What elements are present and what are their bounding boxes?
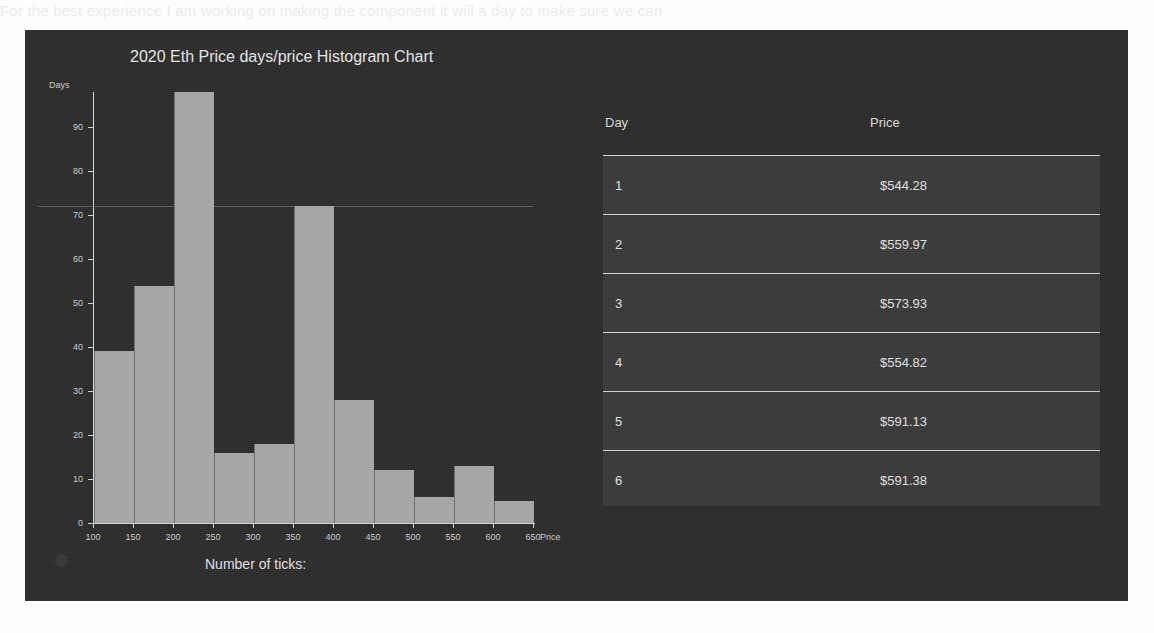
plot-area: 0102030405060708090 10015020025030035040… — [93, 92, 533, 524]
table-row[interactable]: 5$591.13 — [603, 392, 1100, 451]
y-tick-label: 80 — [61, 166, 83, 176]
x-tick — [173, 523, 174, 528]
price-table: Day Price 1$544.282$559.973$573.934$554.… — [585, 30, 1128, 601]
x-tick-label: 400 — [325, 532, 340, 542]
x-tick-label: 550 — [445, 532, 460, 542]
histogram-bar — [334, 400, 374, 523]
cell-price: $573.93 — [880, 296, 927, 311]
x-tick — [93, 523, 94, 528]
y-tick — [88, 391, 93, 392]
x-tick — [253, 523, 254, 528]
status-dot-icon — [55, 554, 68, 567]
x-axis-label: Price — [540, 532, 561, 542]
background-ghost-text-top: For the best experience I am working on … — [0, 2, 1154, 28]
y-tick — [88, 171, 93, 172]
x-tick — [413, 523, 414, 528]
x-tick-label: 350 — [285, 532, 300, 542]
cell-price: $591.13 — [880, 414, 927, 429]
y-tick — [88, 127, 93, 128]
y-tick — [88, 347, 93, 348]
y-tick — [88, 303, 93, 304]
histogram-bar — [134, 286, 174, 523]
histogram-bar — [214, 453, 254, 523]
x-tick-label: 650 — [525, 532, 540, 542]
histogram-chart: 2020 Eth Price days/price Histogram Char… — [25, 30, 585, 601]
histogram-bar — [374, 470, 414, 523]
x-tick — [453, 523, 454, 528]
x-tick-label: 300 — [245, 532, 260, 542]
x-tick — [333, 523, 334, 528]
chart-title: 2020 Eth Price days/price Histogram Char… — [130, 48, 433, 66]
y-axis-label: Days — [49, 80, 70, 90]
cell-day: 5 — [615, 414, 622, 429]
table-row[interactable]: 4$554.82 — [603, 333, 1100, 392]
x-tick — [493, 523, 494, 528]
histogram-bar — [94, 351, 134, 523]
y-tick-label: 30 — [61, 386, 83, 396]
histogram-bar — [494, 501, 534, 523]
y-tick-label: 20 — [61, 430, 83, 440]
cell-price: $591.38 — [880, 473, 927, 488]
y-tick-label: 10 — [61, 474, 83, 484]
table-header-row: Day Price — [585, 115, 1100, 155]
cell-day: 4 — [615, 355, 622, 370]
y-tick — [88, 479, 93, 480]
x-axis-line — [93, 523, 535, 524]
table-row[interactable]: 3$573.93 — [603, 274, 1100, 333]
x-tick-label: 100 — [85, 532, 100, 542]
y-tick-label: 50 — [61, 298, 83, 308]
x-tick — [133, 523, 134, 528]
y-tick-label: 40 — [61, 342, 83, 352]
table-row[interactable]: 1$544.28 — [603, 156, 1100, 215]
cell-price: $544.28 — [880, 178, 927, 193]
y-tick — [88, 435, 93, 436]
table-body[interactable]: 1$544.282$559.973$573.934$554.825$591.13… — [603, 155, 1100, 506]
x-tick-label: 150 — [125, 532, 140, 542]
app-panel: 2020 Eth Price days/price Histogram Char… — [25, 30, 1128, 601]
background-ghost-text-bottom — [0, 606, 1154, 632]
cell-price: $554.82 — [880, 355, 927, 370]
cell-day: 6 — [615, 473, 622, 488]
y-tick — [88, 259, 93, 260]
column-header-price: Price — [870, 115, 900, 130]
histogram-bar — [414, 497, 454, 523]
x-tick — [293, 523, 294, 528]
histogram-bar — [294, 206, 334, 523]
column-header-day: Day — [605, 115, 628, 130]
number-of-ticks-label: Number of ticks: — [205, 556, 306, 572]
cell-day: 3 — [615, 296, 622, 311]
histogram-bar — [174, 92, 214, 523]
y-tick-label: 70 — [61, 210, 83, 220]
x-tick — [373, 523, 374, 528]
x-tick-label: 250 — [205, 532, 220, 542]
x-tick-label: 600 — [485, 532, 500, 542]
table-row[interactable]: 2$559.97 — [603, 215, 1100, 274]
cell-day: 1 — [615, 178, 622, 193]
x-tick-label: 450 — [365, 532, 380, 542]
y-tick-label: 60 — [61, 254, 83, 264]
histogram-bar — [254, 444, 294, 523]
x-tick-label: 200 — [165, 532, 180, 542]
cell-day: 2 — [615, 237, 622, 252]
highlight-gridline — [38, 206, 533, 207]
histogram-bar — [454, 466, 494, 523]
y-tick-label: 90 — [61, 122, 83, 132]
x-tick — [533, 523, 534, 528]
x-tick — [213, 523, 214, 528]
x-tick-label: 500 — [405, 532, 420, 542]
y-tick-label: 0 — [61, 518, 83, 528]
cell-price: $559.97 — [880, 237, 927, 252]
y-tick — [88, 215, 93, 216]
table-row[interactable]: 6$591.38 — [603, 451, 1100, 506]
